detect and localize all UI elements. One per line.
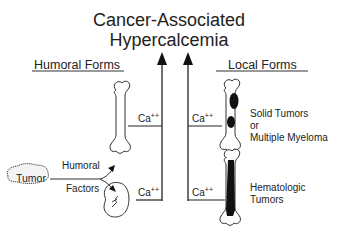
bone-with-lesions-icon bbox=[220, 79, 241, 151]
solid-or-label: or bbox=[250, 120, 259, 132]
bone-with-marrow-icon bbox=[220, 149, 241, 225]
hematologic-label: Hematologic bbox=[250, 182, 306, 194]
humoral-factors-label-line2: Factors bbox=[66, 183, 99, 195]
solid-tumors-label: Solid Tumors bbox=[250, 108, 308, 120]
ca-label-kidney: Ca++ bbox=[138, 186, 159, 198]
bone-icon bbox=[110, 81, 131, 153]
ca-label-solid: Ca++ bbox=[192, 112, 213, 124]
ca-label-hematologic: Ca++ bbox=[192, 186, 213, 198]
ca-label-humoral-bone: Ca++ bbox=[138, 112, 159, 124]
hematologic-tumors-label: Tumors bbox=[250, 194, 284, 206]
humoral-factors-label-line1: Humoral bbox=[62, 160, 100, 172]
kidney-icon bbox=[104, 182, 129, 217]
tumor-label: Tumor bbox=[16, 172, 46, 184]
multiple-myeloma-label: Multiple Myeloma bbox=[250, 132, 328, 144]
